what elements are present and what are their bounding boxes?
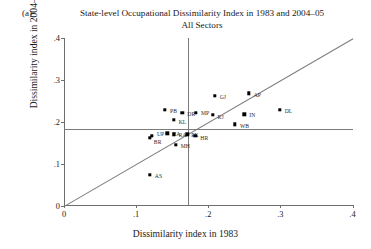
data-point-label-in: IN (249, 112, 255, 118)
data-point-ra (172, 133, 175, 136)
y-axis-title: Dissimilarity index in 2004–05 (28, 0, 39, 134)
y-tick (61, 38, 64, 39)
data-point-label-kl: KL (179, 119, 187, 125)
y-tick-label: .2 (48, 117, 60, 126)
data-point-label-rj: RJ (218, 114, 224, 120)
y-tick-label: 0 (48, 201, 60, 210)
data-point-as (148, 173, 151, 176)
scatter-plot-area: 0.1.2.3.40.1.2.3.4ASUPBRPBHARAKLMHDRPKHR… (0, 0, 371, 249)
x-axis-title: Dissimilarity index in 1983 (0, 228, 371, 239)
data-point-pk (186, 133, 189, 136)
data-point-label-wb: WB (240, 123, 249, 129)
x-tick-label: .2 (205, 210, 211, 219)
chart-figure: (a) State-level Occupational Dissimilari… (0, 0, 371, 249)
data-point-rj (211, 113, 214, 116)
y-tick (61, 122, 64, 123)
data-point-label-mp: MP (201, 110, 209, 116)
data-point-label-mh: MH (181, 143, 190, 149)
y-tick-label: .4 (48, 34, 60, 43)
data-point-label-hr: HR (200, 135, 208, 141)
data-point-kl (172, 118, 175, 121)
data-point-br (148, 136, 151, 139)
data-point-in (243, 113, 246, 116)
mean-2004-hline (64, 129, 353, 130)
x-tick (208, 205, 209, 208)
x-tick-label: .1 (133, 210, 139, 219)
x-tick (280, 205, 281, 208)
x-tick-label: .4 (349, 210, 355, 219)
y-tick-label: .1 (48, 159, 60, 168)
x-tick (136, 205, 137, 208)
x-tick-label: .3 (277, 210, 283, 219)
data-point-wb (233, 123, 236, 126)
identity-line (64, 38, 353, 206)
data-point-hr (194, 134, 197, 137)
x-tick-label: 0 (62, 210, 66, 219)
y-tick-label: .3 (48, 75, 60, 84)
mean-1983-vline (188, 38, 189, 206)
data-point-label-br: BR (154, 139, 162, 145)
data-point-dl (278, 108, 281, 111)
data-point-label-gj: GJ (220, 94, 226, 100)
y-tick (61, 80, 64, 81)
y-tick (61, 164, 64, 165)
data-point-label-ap: AP (254, 92, 261, 98)
data-point-ha (165, 132, 168, 135)
data-point-ap (247, 92, 250, 95)
data-point-label-as: AS (155, 173, 162, 179)
y-axis-line (64, 38, 65, 206)
data-point-label-pb: PB (170, 108, 177, 114)
data-point-mp (194, 111, 197, 114)
data-point-dr (181, 111, 184, 114)
data-point-label-up: UP (157, 131, 164, 137)
x-tick (353, 205, 354, 208)
data-point-label-dl: DL (285, 108, 293, 114)
data-point-pb (163, 108, 166, 111)
data-point-gj (213, 94, 216, 97)
data-point-mh (174, 143, 177, 146)
